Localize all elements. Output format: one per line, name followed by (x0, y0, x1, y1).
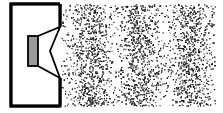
speaker-icon (0, 0, 223, 113)
sound-wave-diagram (0, 0, 223, 113)
speaker-magnet (28, 36, 38, 66)
